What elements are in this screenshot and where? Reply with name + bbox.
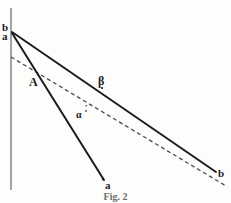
- point-label-alpha-prime: ′: [85, 104, 88, 113]
- point-label-A: A: [29, 76, 38, 88]
- figure-container: b a A β α ′ a b Fig. 2: [0, 0, 231, 203]
- figure-background: [0, 0, 231, 203]
- figure-caption: Fig. 2: [0, 192, 231, 202]
- figure-drawing: [0, 0, 231, 203]
- endpoint-label-a: a: [105, 180, 111, 191]
- point-label-beta: β: [98, 75, 104, 87]
- apex-label-a: a: [2, 31, 8, 42]
- point-label-alpha: α: [76, 110, 82, 120]
- endpoint-a-marker: [102, 178, 104, 180]
- endpoint-label-b: b: [218, 168, 224, 179]
